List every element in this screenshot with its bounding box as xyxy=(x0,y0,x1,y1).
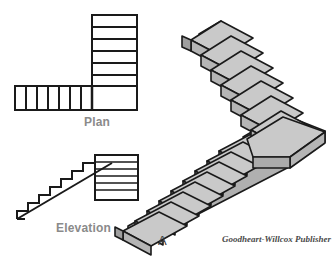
isometric-stair-group xyxy=(115,21,325,255)
elevation-step-profile xyxy=(17,163,95,219)
publisher-credit: Goodheart-Willcox Publisher xyxy=(222,234,331,244)
isometric-landing-front-face xyxy=(253,157,290,168)
figure-letter-label: A xyxy=(158,233,167,248)
plan-view-group xyxy=(15,15,137,110)
elevation-view-group xyxy=(17,155,138,219)
plan-lower-run-outline xyxy=(15,86,137,110)
plan-view-label: Plan xyxy=(84,115,110,129)
stair-drawing-figure: Plan Elevation A Goodheart-Willcox Publi… xyxy=(0,0,332,274)
elevation-view-label: Elevation xyxy=(56,221,111,235)
